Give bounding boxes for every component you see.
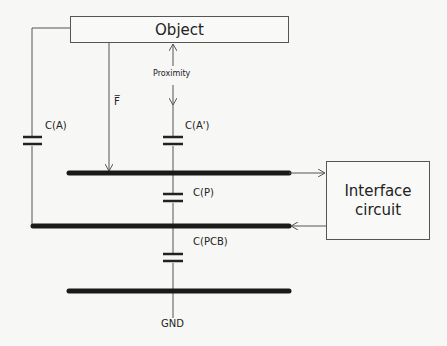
interface-label-line2: circuit xyxy=(355,201,401,220)
cap-a-label: C(A) xyxy=(45,120,67,131)
capacitor-a-prime-icon xyxy=(163,136,183,146)
ground-label: GND xyxy=(161,318,184,329)
interface-label-line1: Interface xyxy=(344,182,411,201)
cap-a-prime-label: C(A') xyxy=(185,120,209,131)
object-box: Object xyxy=(70,16,289,43)
capacitor-p-icon xyxy=(163,193,183,203)
cap-pcb-label: C(PCB) xyxy=(193,236,228,247)
object-label: Object xyxy=(155,21,204,39)
force-label: F̅ xyxy=(114,96,120,107)
capacitor-a-icon xyxy=(23,136,42,146)
capacitive-sensing-diagram: Object Interface circuit Proximity F̅ C(… xyxy=(0,0,447,346)
capacitor-pcb-icon xyxy=(163,253,183,263)
cap-p-label: C(P) xyxy=(193,187,214,198)
interface-circuit-box: Interface circuit xyxy=(326,161,430,240)
proximity-label: Proximity xyxy=(153,69,190,78)
